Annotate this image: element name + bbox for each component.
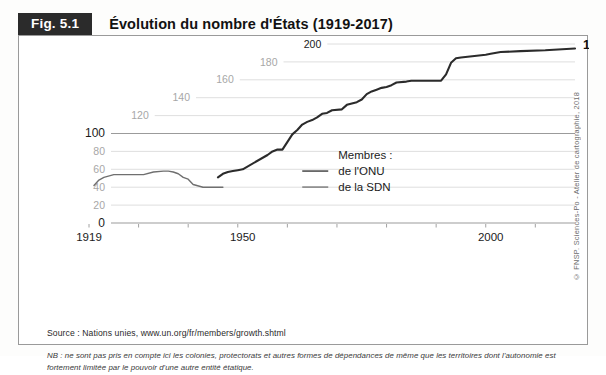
y-axis-label-60: 60 <box>93 163 105 175</box>
figure-header: Fig. 5.1 Évolution du nombre d'États (19… <box>18 13 393 35</box>
y-axis-label-200: 200 <box>304 38 322 50</box>
y-axis-label-0: 0 <box>98 216 105 230</box>
y-axis-label-180: 180 <box>260 56 278 68</box>
y-axis-label-100: 100 <box>85 126 105 140</box>
line-chart: 0204060801001201401601802001919195020001… <box>19 36 589 261</box>
y-axis-label-20: 20 <box>93 199 105 211</box>
x-axis-label-2000: 2000 <box>478 231 504 243</box>
end-value-annotation: 195 <box>583 38 589 52</box>
x-axis-label-1950: 1950 <box>230 231 256 243</box>
figure-frame: 0204060801001201401601802001919195020001… <box>18 35 588 345</box>
y-axis-label-160: 160 <box>216 73 234 85</box>
chart-plot-area: 0204060801001201401601802001919195020001… <box>19 36 589 261</box>
note-text: NB : ne sont pas pris en compte ici les … <box>47 350 567 375</box>
figure-number-tag: Fig. 5.1 <box>18 13 92 35</box>
legend-title: Membres : <box>338 149 392 161</box>
legend-label-sdn: de la SDN <box>338 181 390 193</box>
copyright-credit: © FNSP. Sciences-Po - Atelier de cartogr… <box>572 92 581 281</box>
y-axis-label-40: 40 <box>93 181 105 193</box>
series-line-sdn <box>94 171 223 187</box>
source-text: Source : Nations unies, www.un.org/fr/me… <box>47 328 286 338</box>
y-axis-label-120: 120 <box>131 109 149 121</box>
y-axis-label-80: 80 <box>93 145 105 157</box>
series-line-onu <box>218 48 575 177</box>
legend-label-onu: de l'ONU <box>338 165 384 177</box>
x-axis-label-1919: 1919 <box>76 231 102 243</box>
y-axis-label-140: 140 <box>173 91 191 103</box>
page-title: Évolution du nombre d'États (1919-2017) <box>92 13 393 35</box>
